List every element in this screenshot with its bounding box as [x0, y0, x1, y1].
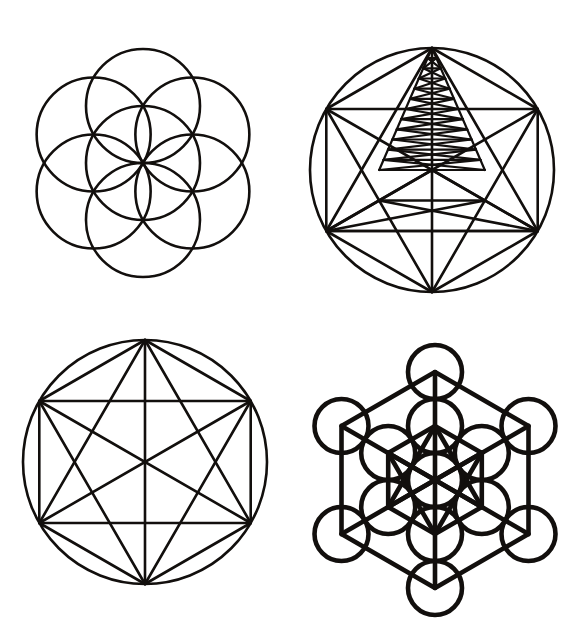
- metatron-connecting-lines: [342, 372, 529, 588]
- hexagram-side-ul-t: [39, 340, 145, 401]
- hexagram-chord-ur-b: [145, 401, 251, 584]
- hexagram-chord-ul-b: [39, 401, 145, 584]
- metatrons-cube-svg: [289, 320, 579, 641]
- hexagram-side-lr-b: [145, 523, 251, 584]
- hexagram-chord-t-lr: [145, 340, 251, 523]
- seed-of-life-circles: [37, 49, 250, 277]
- hexagram-side-b-ll: [39, 523, 145, 584]
- figure-metatrons-cube: [289, 320, 579, 641]
- seed-of-life-svg: [0, 0, 290, 320]
- hexagram-chords: [39, 340, 250, 584]
- hexagram-side-t-ur: [145, 340, 251, 401]
- figure-seed-of-life: [0, 0, 290, 320]
- figure-pyramid-hexagram: [289, 0, 579, 320]
- sacred-geometry-sheet: [0, 0, 579, 641]
- hex-side-b-ll: [326, 231, 432, 292]
- pyramid-hexagram-svg: [289, 0, 579, 320]
- hexagram-circle-svg: [0, 320, 290, 641]
- figure-hexagram-circle: [0, 320, 290, 641]
- hexagram-chord-t-ll: [39, 340, 145, 523]
- hex-side-lr-b: [432, 231, 538, 292]
